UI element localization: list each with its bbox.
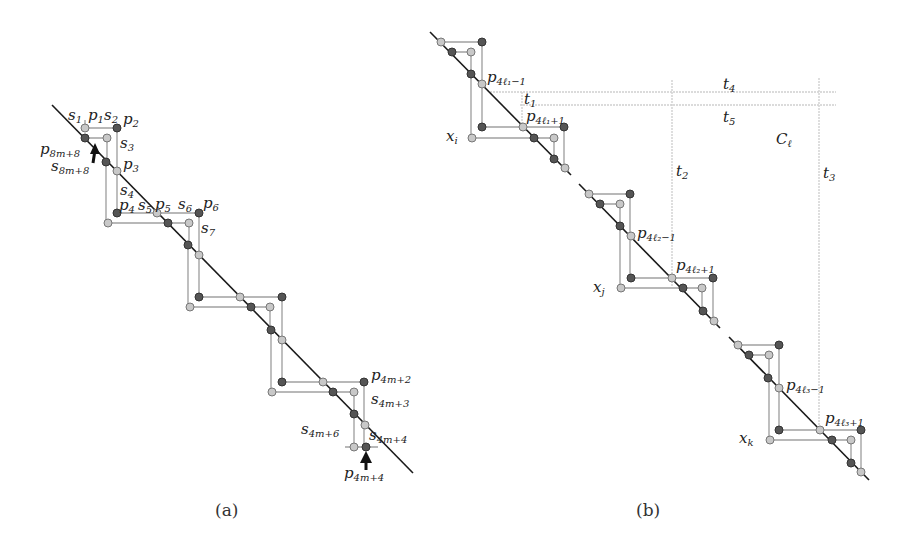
panel-a: s1 p1 s2 p2 s3 p8m+8 s8m+8 p3 s4 p4 s5 p… <box>40 105 413 520</box>
label-p4m2: p4m+2 <box>371 366 411 385</box>
label-s7: s7 <box>201 219 216 238</box>
label-C-ell: Cℓ <box>776 130 792 149</box>
label-p6: p6 <box>203 194 220 213</box>
label-s3: s3 <box>120 134 134 153</box>
label-p3: p3 <box>123 155 139 174</box>
label-t3: t3 <box>823 164 835 183</box>
label-s4m6: s4m+6 <box>301 420 340 439</box>
label-p4l1-minus-1: p4ℓ₁−1 <box>487 68 526 87</box>
label-s8m8: s8m+8 <box>51 157 89 176</box>
label-xi: xi <box>446 127 458 146</box>
label-t2: t2 <box>676 162 688 181</box>
label-p8m8: p8m+8 <box>40 140 80 159</box>
panel-b-diagonal <box>430 32 869 480</box>
figure-canvas: s1 p1 s2 p2 s3 p8m+8 s8m+8 p3 s4 p4 s5 p… <box>0 0 912 547</box>
caption-a: (a) <box>215 500 238 520</box>
panel-b: p4ℓ₁−1 t1 p4ℓ₁+1 xi t4 t5 Cℓ t2 t3 p4ℓ₂−… <box>430 32 869 520</box>
panel-b-labels: p4ℓ₁−1 t1 p4ℓ₁+1 xi t4 t5 Cℓ t2 t3 p4ℓ₂−… <box>446 68 864 448</box>
label-t4: t4 <box>723 75 735 94</box>
label-s5: s5 <box>138 196 152 215</box>
label-s6: s6 <box>178 195 193 214</box>
label-s4m4: s4m+4 <box>369 426 407 445</box>
panel-a-points <box>81 124 370 451</box>
label-p4m4: p4m+4 <box>344 464 384 483</box>
label-p4l2-plus-1: p4ℓ₂+1 <box>676 256 715 275</box>
label-xj: xj <box>593 278 605 297</box>
label-p4l2-minus-1: p4ℓ₂−1 <box>637 224 676 243</box>
label-xk: xk <box>739 429 754 448</box>
label-t5: t5 <box>723 108 735 127</box>
caption-b: (b) <box>636 500 660 520</box>
label-p4l3-plus-1: p4ℓ₃+1 <box>825 409 864 428</box>
label-s1: s1 <box>68 106 82 125</box>
label-s2: s2 <box>104 106 118 125</box>
label-s4m3: s4m+3 <box>371 390 409 409</box>
arrow-icon-p4m4 <box>360 451 372 470</box>
label-p5: p5 <box>155 195 171 214</box>
panel-a-labels: s1 p1 s2 p2 s3 p8m+8 s8m+8 p3 s4 p4 s5 p… <box>40 106 411 483</box>
label-p2: p2 <box>123 110 139 129</box>
label-p1: p1 <box>88 106 104 125</box>
label-p4l1-plus-1: p4ℓ₁+1 <box>526 107 565 126</box>
